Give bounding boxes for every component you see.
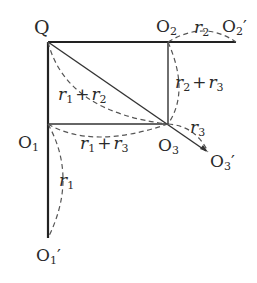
arrow-head-O3prime <box>200 145 208 152</box>
label-O1prime: O1′ <box>36 247 61 266</box>
label-r2: r2 <box>194 19 209 38</box>
label-r2-plus-r3: r2+r3 <box>175 74 224 93</box>
label-O2prime: O2′ <box>222 18 247 37</box>
label-O3: O3 <box>158 137 179 156</box>
label-Q: Q <box>34 18 50 37</box>
label-r1-plus-r2: r1+r2 <box>58 86 107 105</box>
label-r3: r3 <box>190 119 205 138</box>
label-O3prime: O3′ <box>210 153 235 172</box>
label-O1: O1 <box>18 134 39 153</box>
label-O2: O2 <box>156 18 177 37</box>
label-r1: r1 <box>59 172 74 191</box>
label-r1-plus-r3: r1+r3 <box>80 135 129 154</box>
